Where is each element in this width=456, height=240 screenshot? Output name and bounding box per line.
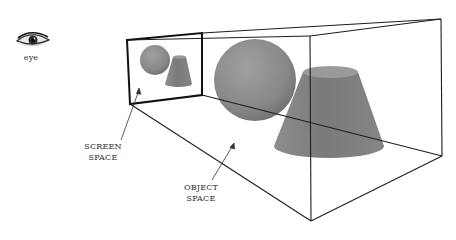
object-space-label: OBJECT SPACE	[172, 182, 230, 204]
screen-space-label-line2: SPACE	[74, 152, 132, 163]
object-space-label-line2: SPACE	[172, 193, 230, 204]
screen-space-label-line1: SCREEN	[74, 141, 132, 152]
screen-space-label: SCREEN SPACE	[74, 141, 132, 163]
object-space-label-line1: OBJECT	[172, 182, 230, 193]
screen-space-sphere	[140, 45, 170, 75]
eye-icon	[16, 33, 49, 47]
object-space-pointer	[212, 143, 235, 180]
screen-space-pointer	[121, 88, 141, 140]
eye-label: eye	[18, 52, 44, 63]
